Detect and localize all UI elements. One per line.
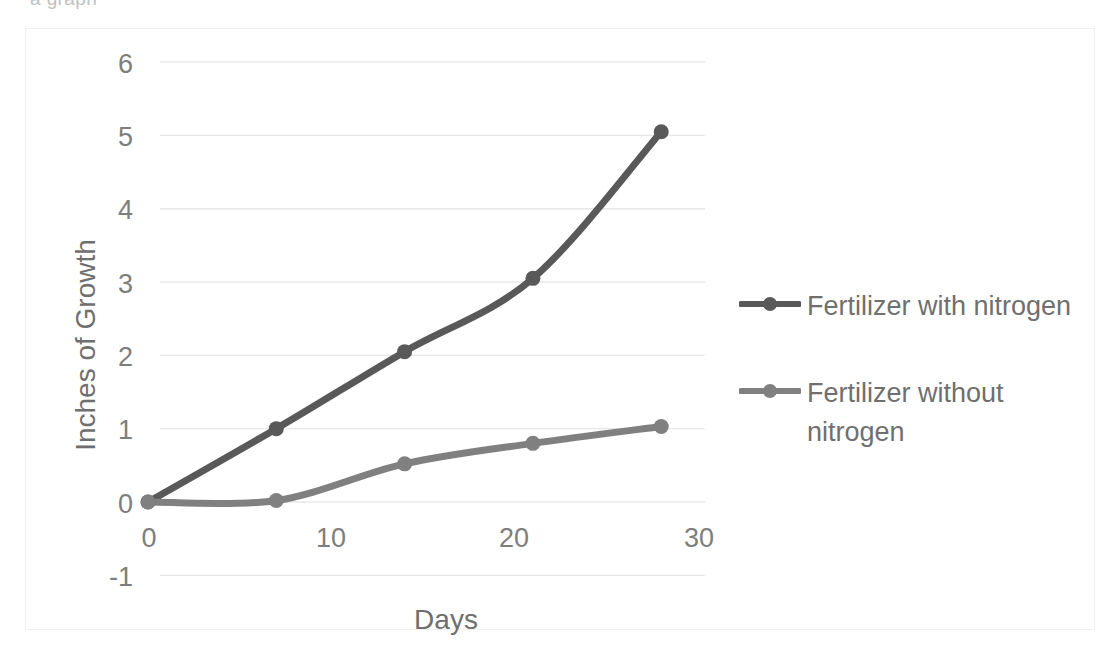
- legend-label: Fertilizer without nitrogen: [807, 374, 1107, 452]
- legend-label: Fertilizer with nitrogen: [807, 287, 1071, 326]
- chart-legend: Fertilizer with nitrogen Fertilizer with…: [739, 287, 1112, 500]
- y-tick-label: 0: [73, 489, 133, 520]
- y-tick-label: -1: [73, 562, 133, 593]
- x-tick-label: 30: [664, 523, 734, 554]
- y-axis-title: Inches of Growth: [70, 215, 102, 475]
- y-tick-label: 6: [73, 49, 133, 80]
- legend-marker-icon: [739, 291, 801, 317]
- legend-item[interactable]: Fertilizer without nitrogen: [739, 374, 1112, 452]
- chart-frame: 6 5 4 3 2 1 0 -1 0 10 20 30 Inches of Gr…: [25, 28, 1095, 630]
- legend-item[interactable]: Fertilizer with nitrogen: [739, 287, 1112, 326]
- x-tick-label: 0: [114, 523, 184, 554]
- x-axis-title: Days: [356, 604, 536, 636]
- y-tick-label: 5: [73, 122, 133, 153]
- x-tick-label: 20: [479, 523, 549, 554]
- scan-clipped-text-artifact: a graph: [30, 0, 590, 10]
- x-tick-label: 10: [296, 523, 366, 554]
- legend-marker-icon: [739, 378, 801, 404]
